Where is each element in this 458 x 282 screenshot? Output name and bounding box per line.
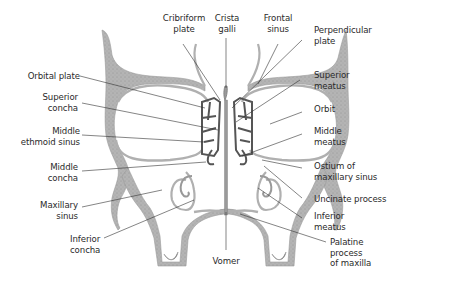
- nasal-septum: [224, 86, 228, 215]
- label-perpendicular-plate: Perpendicular plate: [314, 25, 372, 46]
- label-palatine-process: Palatine process of maxilla: [330, 237, 371, 269]
- label-middle-meatus: Middle meatus: [314, 126, 346, 147]
- label-inferior-concha: Inferior concha: [70, 234, 100, 255]
- left-lateral-wall: [102, 30, 205, 230]
- label-inferior-meatus: Inferior meatus: [314, 211, 346, 232]
- label-crista-galli: Crista galli: [212, 13, 242, 34]
- label-superior-concha: Superior concha: [0, 92, 78, 113]
- label-orbital-plate: Orbital plate: [0, 71, 80, 82]
- label-orbit: Orbit: [314, 104, 335, 115]
- label-middle-concha: Middle concha: [0, 162, 78, 183]
- label-superior-meatus: Superior meatus: [314, 70, 350, 91]
- label-vomer: Vomer: [206, 256, 246, 267]
- label-ostium-maxillary-sinus: Ostium of maxillary sinus: [314, 161, 377, 182]
- label-uncinate-process: Uncinate process: [314, 194, 386, 205]
- label-maxillary-sinus: Maxillary sinus: [0, 200, 78, 221]
- frontal-sinus-outline: [194, 44, 259, 86]
- left-lower-wall: [122, 168, 236, 266]
- label-frontal-sinus: Frontal sinus: [258, 13, 298, 34]
- label-cribriform-plate: Cribriform plate: [154, 13, 214, 34]
- label-middle-ethmoid-sinus: Middle ethmoid sinus: [0, 126, 80, 147]
